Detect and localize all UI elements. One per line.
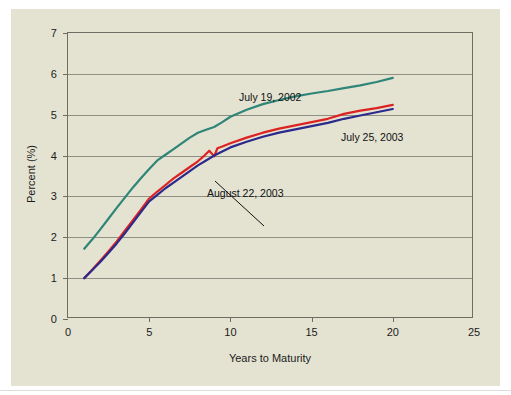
y-tick-label-0: 0: [51, 313, 64, 325]
y-tick-label-4: 4: [51, 150, 64, 162]
y-tick-label-7: 7: [51, 27, 64, 39]
series-annotation-august-22-2003: August 22, 2003: [207, 187, 283, 199]
figure-frame: Percent (%) Years to Maturity 01234567 0…: [0, 0, 511, 395]
series-annotation-july-25-2003: July 25, 2003: [341, 131, 403, 143]
y-tick-label-3: 3: [51, 190, 64, 202]
annotation-leader-line: [68, 33, 474, 319]
x-tick-label-15: 15: [305, 326, 317, 338]
figure-bottom-rule: [0, 390, 511, 391]
y-tick-label-2: 2: [51, 231, 64, 243]
x-tick-label-5: 5: [146, 326, 152, 338]
chart-panel: Percent (%) Years to Maturity 01234567 0…: [11, 9, 500, 386]
x-tick-label-20: 20: [387, 326, 399, 338]
x-axis-label: Years to Maturity: [67, 352, 473, 364]
x-tick-label-0: 0: [65, 326, 71, 338]
x-tick-label-10: 10: [224, 326, 236, 338]
series-annotation-july-19-2002: July 19, 2002: [239, 91, 301, 103]
y-axis-label: Percent (%): [25, 145, 37, 203]
y-tick-label-1: 1: [51, 272, 64, 284]
y-tick-label-5: 5: [51, 109, 64, 121]
y-tick-label-6: 6: [51, 68, 64, 80]
x-tick-label-25: 25: [468, 326, 480, 338]
plot-area: 01234567 0510152025: [67, 32, 473, 318]
